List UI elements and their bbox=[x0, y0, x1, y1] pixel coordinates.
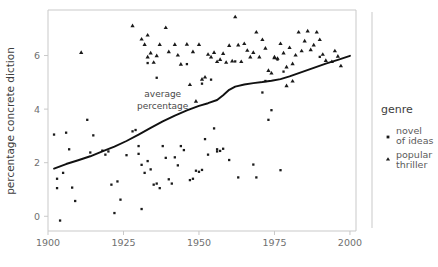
y-axis-title: percentage concrete diction bbox=[4, 47, 16, 195]
data-point bbox=[62, 172, 64, 174]
data-point bbox=[53, 133, 55, 135]
legend-item-thriller-label-line2: thriller bbox=[396, 159, 427, 170]
data-point bbox=[195, 170, 197, 172]
data-point bbox=[177, 164, 179, 166]
data-point bbox=[207, 154, 209, 156]
x-tick-label: 1950 bbox=[187, 237, 211, 248]
x-tick-label: 1925 bbox=[111, 237, 135, 248]
y-tick-label: 0 bbox=[34, 211, 40, 222]
data-point bbox=[137, 145, 139, 147]
data-point bbox=[159, 187, 161, 189]
data-point bbox=[198, 171, 200, 173]
data-point bbox=[65, 132, 67, 134]
data-point bbox=[140, 164, 142, 166]
data-point bbox=[134, 129, 136, 131]
data-point bbox=[228, 159, 230, 161]
data-point bbox=[219, 150, 221, 152]
data-point bbox=[237, 176, 239, 178]
data-point bbox=[146, 62, 148, 64]
data-point bbox=[110, 184, 112, 186]
data-point bbox=[213, 127, 215, 129]
legend-marker-square bbox=[387, 136, 390, 139]
data-point bbox=[125, 154, 127, 156]
data-point bbox=[119, 199, 121, 201]
data-point bbox=[89, 151, 91, 153]
data-point bbox=[216, 150, 218, 152]
x-tick-label: 1900 bbox=[36, 237, 60, 248]
y-tick-label: 6 bbox=[34, 50, 40, 61]
data-point bbox=[156, 182, 158, 184]
data-point bbox=[113, 212, 115, 214]
data-point bbox=[153, 184, 155, 186]
data-point bbox=[222, 148, 224, 150]
data-point bbox=[282, 70, 284, 72]
data-point bbox=[56, 187, 58, 189]
data-point bbox=[192, 178, 194, 180]
data-point bbox=[183, 149, 185, 151]
scatter-chart: 19001925195019752000 0246 percentage con… bbox=[0, 0, 438, 267]
data-point bbox=[165, 157, 167, 159]
y-tick-label: 4 bbox=[34, 104, 40, 115]
data-point bbox=[201, 83, 203, 85]
data-point bbox=[186, 63, 188, 65]
data-point bbox=[59, 219, 61, 221]
data-point bbox=[146, 160, 148, 162]
data-point bbox=[279, 169, 281, 171]
data-point bbox=[255, 176, 257, 178]
y-tick-label: 2 bbox=[34, 157, 40, 168]
annotation-line-2: percentage bbox=[137, 101, 189, 111]
data-point bbox=[189, 179, 191, 181]
data-point bbox=[216, 148, 218, 150]
data-point bbox=[210, 78, 212, 80]
data-point bbox=[116, 180, 118, 182]
x-tick-label: 1975 bbox=[262, 237, 286, 248]
data-point bbox=[74, 200, 76, 202]
data-point bbox=[156, 77, 158, 79]
data-point bbox=[261, 91, 263, 93]
legend-title: genre bbox=[381, 103, 413, 116]
data-point bbox=[107, 150, 109, 152]
data-point bbox=[68, 148, 70, 150]
data-point bbox=[137, 153, 139, 155]
data-point bbox=[143, 172, 145, 174]
data-point bbox=[104, 154, 106, 156]
annotation-line-1: average bbox=[144, 89, 181, 99]
data-point bbox=[201, 169, 203, 171]
data-point bbox=[86, 119, 88, 121]
chart-figure: 19001925195019752000 0246 percentage con… bbox=[0, 0, 438, 267]
data-point bbox=[174, 156, 176, 158]
data-point bbox=[71, 186, 73, 188]
data-point bbox=[140, 208, 142, 210]
data-point bbox=[180, 145, 182, 147]
data-point bbox=[168, 178, 170, 180]
data-point bbox=[92, 134, 94, 136]
data-point bbox=[252, 163, 254, 165]
data-point bbox=[171, 182, 173, 184]
x-tick-label: 2000 bbox=[338, 237, 362, 248]
data-point bbox=[234, 60, 236, 62]
data-point bbox=[319, 56, 321, 58]
data-point bbox=[162, 145, 164, 147]
data-point bbox=[131, 130, 133, 132]
legend-item-novel-label-line2: of ideas bbox=[396, 135, 434, 146]
data-point bbox=[56, 178, 58, 180]
data-point bbox=[150, 168, 152, 170]
data-point bbox=[204, 138, 206, 140]
data-point bbox=[267, 119, 269, 121]
data-point bbox=[270, 109, 272, 111]
